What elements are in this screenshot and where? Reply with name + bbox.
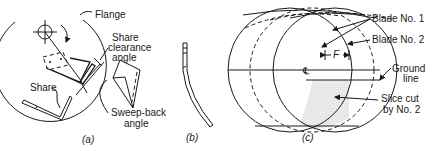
- panel-b: (b): [183, 43, 213, 143]
- label-ground-line-2: line: [403, 73, 419, 84]
- label-blade-no-2: Blade No. 2: [372, 34, 425, 45]
- label-sweep-back-2: angle: [124, 118, 149, 129]
- label-blade-no-1: Blade No. 1: [372, 13, 425, 24]
- dimension-f: F: [333, 49, 340, 60]
- panel-a: Flange Share clearance angle Share Sweep…: [0, 9, 167, 145]
- caption-a: (a): [82, 134, 94, 145]
- label-share: Share: [30, 82, 57, 93]
- tiller-blade-diagram: Flange Share clearance angle Share Sweep…: [0, 0, 437, 151]
- flange-leader: [80, 11, 92, 15]
- label-sweep-back-1: Sweep-back: [111, 107, 167, 118]
- sweep-back-arc: [100, 80, 108, 113]
- label-flange: Flange: [95, 9, 126, 20]
- share-l-blade: [22, 98, 72, 120]
- centerline-symbol: ℄: [302, 65, 310, 76]
- label-slice-cut-1: Slice cut: [381, 93, 419, 104]
- caption-c: (c): [302, 132, 314, 143]
- label-slice-cut-2: by No. 2: [383, 104, 421, 115]
- rotation-arrow-icon: [61, 25, 67, 42]
- caption-b: (b): [186, 132, 198, 143]
- mounting-plate: [43, 52, 68, 70]
- panel-c: ℄ F Blade No. 1 Blade No. 2 Ground line …: [228, 8, 425, 143]
- label-share-clearance-3: angle: [112, 52, 137, 63]
